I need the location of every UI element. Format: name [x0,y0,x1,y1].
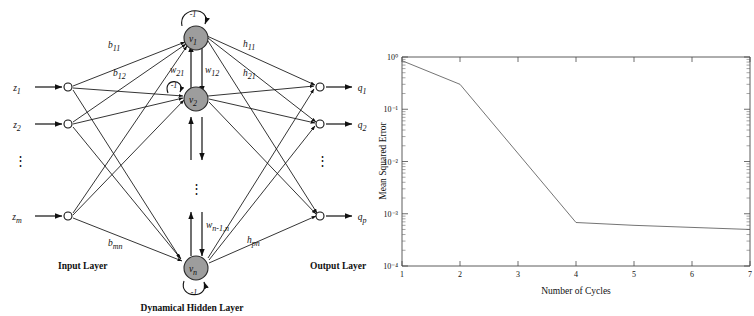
input-nodes [64,83,72,220]
hidden-to-output-weight-labels: h11 h21 hpn [243,39,260,248]
figure-container: z1 z2 zm ⋮ [0,0,754,316]
caption-output-layer: Output Layer [310,261,367,271]
input-label-2: zm [11,212,22,225]
recurrent-edges [191,45,202,256]
weight-label-bmn: bmn [108,238,123,251]
caption-input-layer: Input Layer [58,261,108,271]
bias-label-2: -1 [191,288,198,297]
x-axis-title: Number of Cycles [541,286,611,296]
output-label-2: qp [358,212,367,225]
x-tick-label-1: 2 [458,270,462,279]
weight-label-h11: h11 [243,39,255,52]
output-nodes [316,83,324,220]
bias-label-1: -1 [171,81,178,90]
caption-hidden-layer: Dynamical Hidden Layer [141,303,245,313]
output-label-1: q2 [358,120,367,133]
input-ellipsis: ⋮ [14,153,27,168]
x-ticks [402,57,750,266]
training-curve-svg: 10⁰10⁻¹10⁻²10⁻³10⁻⁴ 1234567 Number of Cy… [377,0,754,316]
y-tick-label-0: 10⁰ [387,53,398,62]
hidden-ellipsis: ⋮ [190,181,203,196]
x-tick-label-6: 7 [748,270,752,279]
input-arrows [35,87,62,216]
input-label-0: z1 [12,83,21,96]
chart-axes [402,57,750,266]
output-node-1 [316,120,324,128]
x-tick-label-0: 1 [400,270,404,279]
output-node-0 [316,83,324,91]
x-tick-label-2: 3 [516,270,520,279]
x-tick-label-4: 5 [632,270,636,279]
input-node-1 [64,120,72,128]
network-diagram-panel: z1 z2 zm ⋮ [0,0,377,316]
output-arrows [326,87,352,216]
input-labels: z1 z2 zm ⋮ [11,83,26,225]
network-diagram-svg: z1 z2 zm ⋮ [0,0,377,316]
output-labels: q1 q2 qp ⋮ [316,83,367,225]
weight-label-b11: b11 [108,40,120,53]
input-node-2 [64,212,72,220]
y-tick-label-3: 10⁻³ [384,210,399,219]
output-label-0: q1 [358,83,367,96]
output-ellipsis: ⋮ [316,153,329,168]
bias-label-0: -1 [190,10,197,19]
training-curve-panel: 10⁰10⁻¹10⁻²10⁻³10⁻⁴ 1234567 Number of Cy… [377,0,754,316]
x-tick-label-3: 4 [574,270,578,279]
y-axis-title: Mean Squared Error [378,121,388,199]
x-tick-labels: 1234567 [400,270,752,279]
weight-label-w21: w21 [170,65,184,78]
weight-label-w12: w12 [205,65,219,78]
mse-curve [402,61,750,230]
y-minor-ticks [402,59,750,250]
input-node-0 [64,83,72,91]
x-tick-label-5: 6 [690,270,694,279]
y-tick-label-1: 10⁻¹ [384,105,399,114]
y-tick-label-4: 10⁻⁴ [383,262,398,271]
weight-label-b12: b12 [113,68,126,81]
input-label-1: z2 [12,120,21,133]
y-major-ticks [402,57,750,266]
output-node-2 [316,212,324,220]
